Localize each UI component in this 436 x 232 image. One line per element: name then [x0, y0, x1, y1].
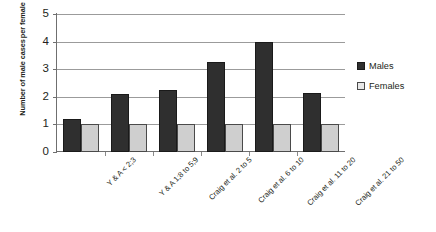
legend-item-females[interactable]: Females: [357, 80, 435, 91]
x-axis-tick-label: Y & A < 2;3: [106, 156, 138, 188]
y-axis-tick-label: 0: [27, 146, 49, 158]
bar-group: [57, 14, 105, 152]
y-axis-tick-label: 2: [27, 91, 49, 103]
x-axis-tick-label: Craig et al. 21 to 50: [354, 156, 406, 208]
x-axis-tick-label: Y & A 1;8 to 5;9: [158, 156, 200, 198]
legend-item-males[interactable]: Males: [357, 60, 435, 71]
bar-group: [297, 14, 345, 152]
bar-males: [159, 90, 177, 152]
y-axis-tick-labels: 012345: [30, 8, 52, 154]
legend-swatch-icon: [357, 82, 365, 90]
y-axis-title-line-1: Number of male cases: [18, 39, 27, 115]
plot-area: [57, 14, 345, 152]
y-axis-tick-label: 1: [27, 118, 49, 130]
bar-females: [81, 124, 99, 152]
legend-label: Males: [369, 61, 394, 71]
bar-group: [153, 14, 201, 152]
x-axis-tick-label: Craig et al. 11 to 20: [306, 156, 357, 207]
bar-males: [255, 42, 273, 152]
y-axis-tick-label: 5: [27, 8, 49, 20]
bar-females: [129, 124, 147, 152]
chart-legend: MalesFemales: [357, 60, 435, 100]
bar-females: [177, 124, 195, 152]
bar-males: [303, 93, 321, 152]
x-axis-tick-label: Craig et al. 2 to 5: [208, 156, 254, 202]
bar-group: [249, 14, 297, 152]
bar-chart: Number of male cases per female 012345 Y…: [0, 0, 436, 232]
y-axis-tick-label: 4: [27, 36, 49, 48]
legend-swatch-icon: [357, 62, 365, 70]
bar-females: [273, 124, 291, 152]
bar-females: [225, 124, 243, 152]
x-axis-tick-label: Craig et al. 6 to 10: [257, 156, 306, 205]
bar-males: [63, 119, 81, 152]
legend-label: Females: [369, 81, 404, 91]
bar-males: [207, 62, 225, 152]
bar-group: [201, 14, 249, 152]
y-axis-tick-label: 3: [27, 63, 49, 75]
bar-males: [111, 94, 129, 152]
y-axis-title-line-2: per female: [18, 2, 27, 38]
bar-group: [105, 14, 153, 152]
bar-females: [321, 124, 339, 152]
x-axis-tick-labels: Y & A < 2;3Y & A 1;8 to 5;9Craig et al. …: [57, 152, 345, 232]
